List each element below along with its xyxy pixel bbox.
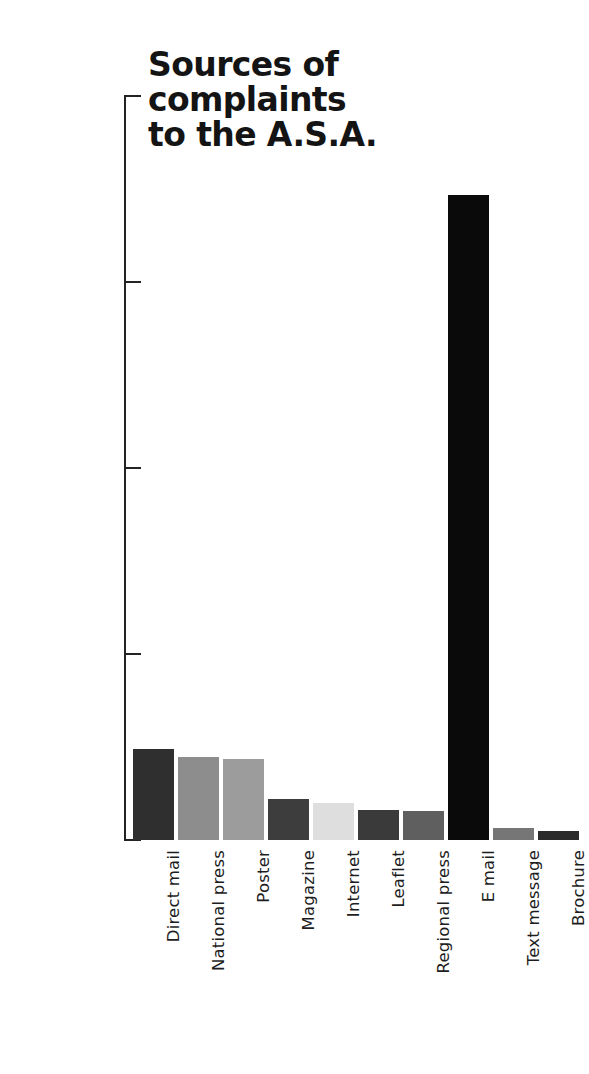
bar (403, 811, 444, 840)
bar (538, 831, 579, 840)
bar (268, 799, 309, 840)
bar (448, 195, 489, 840)
bar (493, 828, 534, 840)
x-axis-label: Internet (343, 850, 365, 1060)
x-axis-label: Direct mail (163, 850, 185, 1060)
bar (313, 803, 354, 840)
x-axis-label: Text message (523, 850, 545, 1060)
x-axis-label: Brochure (568, 850, 589, 1060)
x-axis-label: Regional press (433, 850, 455, 1060)
x-axis-label: E mail (478, 850, 500, 1060)
x-axis-label: Magazine (298, 850, 320, 1060)
bar (358, 810, 399, 840)
x-axis-label: National press (208, 850, 230, 1060)
x-axis-label: Leaflet (388, 850, 410, 1060)
bar (133, 749, 174, 840)
bar (223, 759, 264, 840)
x-axis-label: Poster (253, 850, 275, 1060)
bar (178, 757, 219, 840)
